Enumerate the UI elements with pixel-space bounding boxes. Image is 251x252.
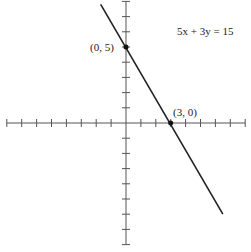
coordinate-plane: 5x + 3y = 15 (0, 5) (3, 0): [0, 0, 251, 252]
intercept-point: [124, 45, 129, 50]
axes: [7, 1, 245, 244]
y-intercept-label: (0, 5): [90, 41, 114, 54]
x-intercept-label: (3, 0): [173, 106, 197, 119]
equation-label: 5x + 3y = 15: [177, 25, 234, 37]
intercept-point: [168, 121, 173, 126]
